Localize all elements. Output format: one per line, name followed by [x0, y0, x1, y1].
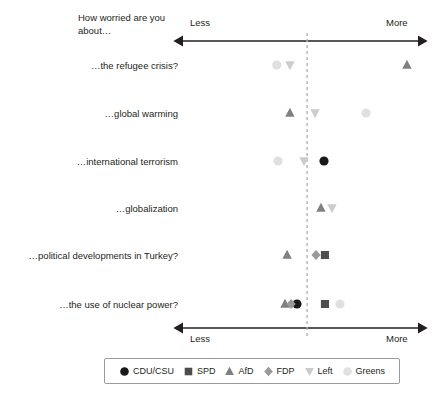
legend-item-label: Greens: [356, 366, 386, 376]
legend-item[interactable]: FDP: [263, 366, 295, 377]
chart-container: How worried are you about… Less More Les…: [0, 0, 436, 395]
legend-item[interactable]: Left: [304, 366, 333, 377]
triangle-up-icon: [224, 366, 235, 377]
data-point-afd: [316, 203, 325, 212]
data-point-afd: [402, 60, 411, 69]
plot-area: [0, 0, 436, 395]
legend-item-label: SPD: [197, 366, 216, 376]
data-point-spd: [321, 300, 329, 308]
legend-item-label: Left: [318, 366, 333, 376]
data-markers: [272, 60, 411, 309]
legend-item[interactable]: CDU/CSU: [119, 366, 174, 377]
data-point-fdp: [311, 250, 320, 260]
data-point-greens: [272, 60, 281, 69]
diamond-icon: [263, 366, 274, 377]
data-point-left: [285, 61, 294, 70]
data-point-cdu-csu: [319, 156, 328, 165]
legend-item[interactable]: Greens: [342, 366, 386, 377]
data-point-greens: [273, 156, 282, 165]
data-point-greens: [335, 299, 344, 308]
data-point-left: [327, 204, 336, 213]
data-point-afd: [282, 250, 291, 259]
legend-item-label: CDU/CSU: [133, 366, 174, 376]
data-point-spd: [321, 251, 329, 259]
data-point-left: [310, 109, 319, 118]
circle-light-icon: [342, 366, 353, 377]
legend-item[interactable]: AfD: [224, 366, 253, 377]
legend-item[interactable]: SPD: [183, 366, 216, 377]
legend: CDU/CSUSPDAfDFDPLeftGreens: [104, 358, 400, 384]
legend-item-label: FDP: [277, 366, 295, 376]
circle-icon: [119, 366, 130, 377]
data-point-greens: [361, 108, 370, 117]
axes-group: [183, 41, 418, 328]
square-icon: [183, 366, 194, 377]
legend-item-label: AfD: [238, 366, 253, 376]
data-point-afd: [285, 108, 294, 117]
triangle-down-icon: [304, 366, 315, 377]
